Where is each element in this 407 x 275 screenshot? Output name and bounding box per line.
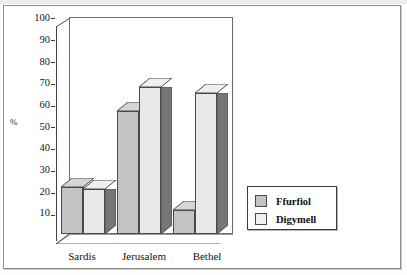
- y-axis-front-line: [56, 26, 57, 241]
- y-tick-label-90: 90: [24, 35, 50, 46]
- legend-entry-ffurfiol: Ffurfiol: [255, 193, 311, 209]
- chart-legend: Ffurfiol Digymell: [247, 186, 337, 230]
- legend-label-digymell: Digymell: [276, 214, 316, 225]
- bar-side-face: [161, 87, 172, 234]
- y-axis-tick-labels: 100 90 80 70 60 50 40 30 20 10: [22, 0, 50, 275]
- bar-top-face: [139, 78, 172, 87]
- bar-chart: % 100 90 80 70 60 50 40 30 20 10: [0, 0, 407, 275]
- bar-sardis-digymell: [83, 180, 105, 234]
- bar-bethel-digymell: [195, 84, 217, 234]
- bar-jerusalem-ffurfiol: [117, 102, 139, 234]
- y-tick-label-10: 10: [24, 208, 50, 219]
- y-tick-mark-40: [51, 149, 55, 150]
- legend-swatch-icon-ffurfiol: [255, 195, 267, 207]
- bar-top-face: [83, 180, 116, 189]
- bar-front-face: [117, 111, 139, 234]
- y-tick-mark-10: [51, 215, 55, 216]
- bar-jerusalem-digymell: [139, 78, 161, 234]
- legend-label-ffurfiol: Ffurfiol: [276, 196, 311, 207]
- x-axis-label-jerusalem: Jerusalem: [105, 250, 183, 262]
- y-tick-label-30: 30: [24, 165, 50, 176]
- bar-side-face: [105, 189, 116, 234]
- bar-bethel-ffurfiol: [173, 201, 195, 234]
- bar-front-face: [139, 87, 161, 234]
- legend-swatch-icon-digymell: [255, 213, 267, 225]
- y-tick-label-60: 60: [24, 100, 50, 111]
- bar-sardis-ffurfiol: [61, 178, 83, 234]
- y-tick-mark-20: [51, 193, 55, 194]
- y-tick-label-40: 40: [24, 143, 50, 154]
- bar-side-face: [217, 93, 228, 234]
- y-tick-label-80: 80: [24, 57, 50, 68]
- y-tick-mark-30: [51, 171, 55, 172]
- y-tick-mark-80: [51, 62, 55, 63]
- y-axis-label: %: [10, 117, 18, 127]
- bar-front-face: [83, 189, 105, 234]
- plot-area-floor: [56, 234, 233, 244]
- y-tick-label-100: 100: [24, 13, 50, 24]
- y-tick-mark-100: [51, 18, 55, 19]
- bar-front-face: [61, 187, 83, 234]
- y-tick-label-20: 20: [24, 187, 50, 198]
- x-axis-label-bethel: Bethel: [174, 250, 240, 262]
- y-tick-mark-70: [51, 84, 55, 85]
- y-tick-mark-50: [51, 127, 55, 128]
- y-tick-label-50: 50: [24, 122, 50, 133]
- bar-front-face: [195, 93, 217, 234]
- y-axis-depth-connector: [56, 18, 70, 27]
- y-tick-label-70: 70: [24, 78, 50, 89]
- y-tick-mark-90: [51, 40, 55, 41]
- bar-front-face: [173, 210, 195, 234]
- bar-top-face: [195, 84, 228, 93]
- legend-entry-digymell: Digymell: [255, 211, 316, 227]
- y-tick-mark-60: [51, 106, 55, 107]
